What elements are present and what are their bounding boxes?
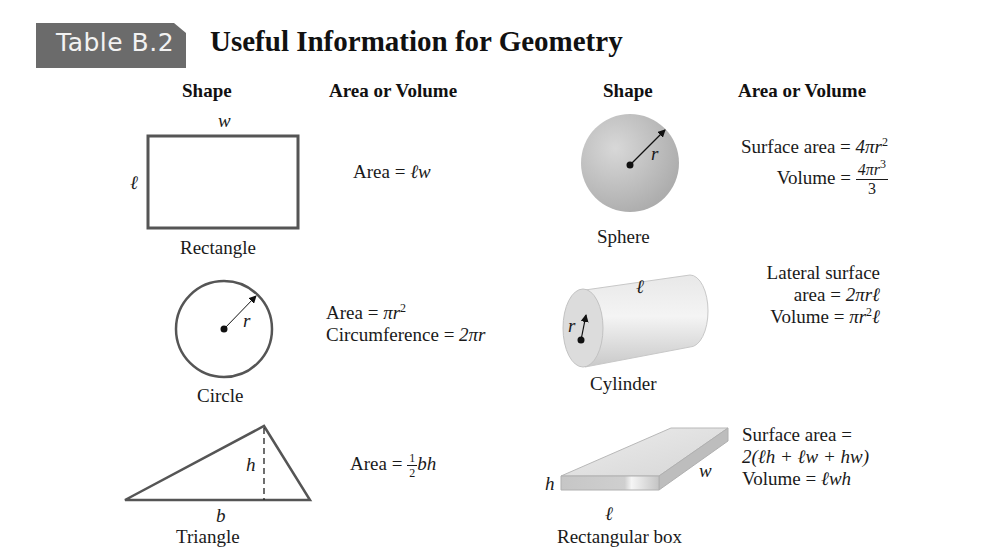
sphere-formulas: Surface area = 4πr2 Volume = 4πr33 bbox=[706, 136, 888, 197]
triangle-area-formula: Area = 12bh bbox=[350, 452, 436, 479]
box-width-label: w bbox=[699, 460, 712, 482]
rectangle-figure bbox=[148, 136, 298, 228]
cylinder-volume-formula: Volume = πr2ℓ bbox=[720, 306, 880, 328]
cylinder-name: Cylinder bbox=[590, 373, 657, 395]
box-name: Rectangular box bbox=[557, 526, 682, 548]
sphere-name: Sphere bbox=[597, 226, 650, 248]
triangle-figure bbox=[125, 426, 310, 500]
box-volume-formula: Volume = ℓwh bbox=[742, 468, 869, 490]
triangle-base-label: b bbox=[216, 505, 226, 527]
triangle-height-label: h bbox=[246, 454, 256, 476]
circle-area-formula: Area = πr2 bbox=[326, 302, 486, 324]
box-length-label: ℓ bbox=[605, 503, 613, 525]
rectangle-name: Rectangle bbox=[180, 237, 256, 259]
sphere-figure bbox=[581, 114, 679, 212]
circle-formulas: Area = πr2 Circumference = 2πr bbox=[326, 302, 486, 346]
triangle-name: Triangle bbox=[176, 526, 240, 548]
rectangle-width-label: w bbox=[218, 110, 231, 132]
box-formulas: Surface area = 2(ℓh + ℓw + hw) Volume = … bbox=[742, 424, 869, 490]
box-surface-area-label: Surface area = bbox=[742, 424, 869, 446]
rectangle-length-label: ℓ bbox=[130, 172, 138, 194]
sphere-surface-area-formula: Surface area = 4πr2 bbox=[706, 136, 888, 158]
circle-name: Circle bbox=[197, 385, 243, 407]
sphere-radius-label: r bbox=[651, 143, 658, 165]
sphere-volume-formula: Volume = 4πr33 bbox=[706, 162, 888, 197]
one-half-fraction: 12 bbox=[407, 452, 417, 479]
box-surface-area-formula: 2(ℓh + ℓw + hw) bbox=[742, 446, 869, 468]
circle-radius-label: r bbox=[243, 310, 250, 332]
box-height-label: h bbox=[545, 473, 555, 495]
circle-figure bbox=[176, 281, 272, 377]
cylinder-length-label: ℓ bbox=[636, 276, 644, 298]
cylinder-radius-label: r bbox=[568, 315, 575, 337]
cylinder-formulas: Lateral surface area = 2πrℓ Volume = πr2… bbox=[720, 262, 880, 328]
cylinder-lateral-formula: area = 2πrℓ bbox=[720, 284, 880, 306]
circle-circumference-formula: Circumference = 2πr bbox=[326, 324, 486, 346]
cylinder-lateral-label: Lateral surface bbox=[720, 262, 880, 284]
rectangle-area-formula: Area = ℓw bbox=[353, 161, 431, 183]
